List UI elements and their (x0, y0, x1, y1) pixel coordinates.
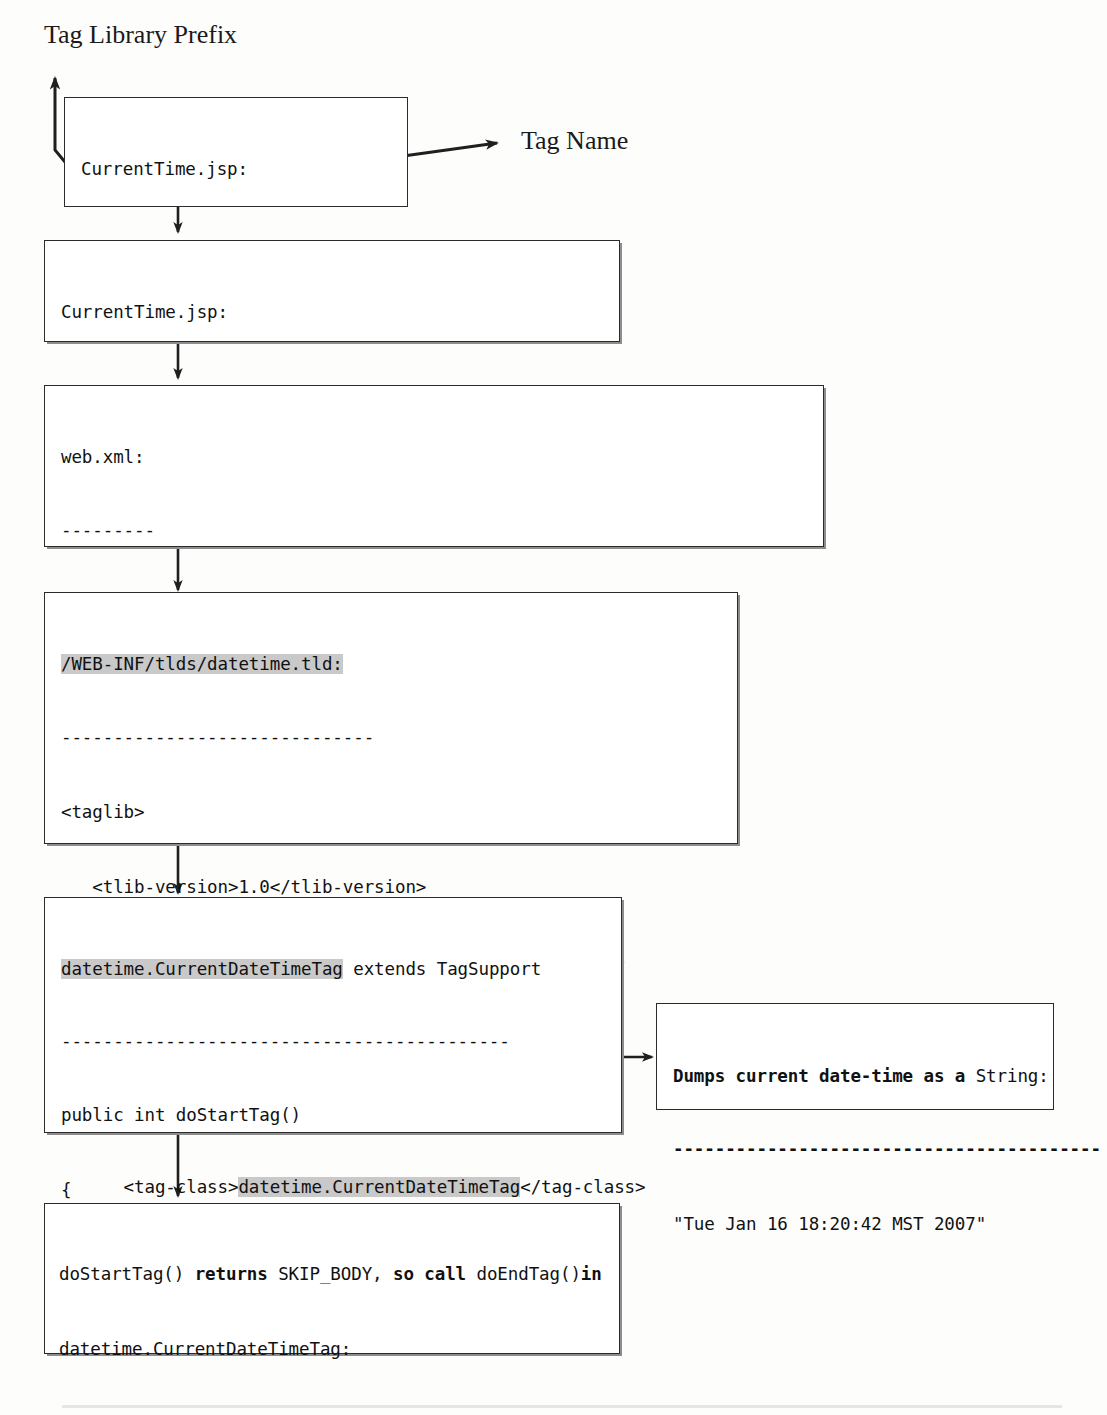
tagclass-fqcn: datetime.CurrentDateTimeTag (61, 959, 343, 979)
webxml-rule: --------- (61, 520, 823, 540)
tagclass-signature: public int doStartTag() (61, 1103, 621, 1128)
endtag-line-2: datetime.CurrentDateTimeTag: (59, 1337, 619, 1362)
tagclass-extends: extends TagSupport (343, 959, 541, 979)
box-taglib-directive: CurrentTime.jsp: ---------------------- … (44, 240, 620, 342)
tag-name-label: Tag Name (521, 126, 628, 156)
jsp-usage-filename: CurrentTime.jsp: (81, 157, 407, 182)
output-value: "Tue Jan 16 18:20:42 MST 2007" (673, 1212, 1053, 1237)
box-output: Dumps current date-time as a String: ---… (656, 1003, 1054, 1110)
endtag-l1a: doStartTag() (59, 1264, 195, 1284)
tld-filename: /WEB-INF/tlds/datetime.tld: (61, 654, 343, 674)
tagclass-rule: ----------------------------------------… (61, 1032, 621, 1051)
endtag-l1c: SKIP_BODY, (268, 1264, 393, 1284)
tld-filename-line: /WEB-INF/tlds/datetime.tld: (61, 652, 737, 677)
figure-canvas: Tag Library Prefix Tag Name CurrentTime.… (0, 0, 1107, 1415)
tagclass-brace-open: { (61, 1178, 621, 1203)
box-tag-class: datetime.CurrentDateTimeTag extends TagS… (44, 897, 622, 1133)
box-end-tag: doStartTag() returns SKIP_BODY, so call … (44, 1203, 620, 1354)
output-header-bold: Dumps current date-time as a (673, 1066, 965, 1086)
box-tld: /WEB-INF/tlds/datetime.tld: ------------… (44, 592, 738, 844)
tld-rule: ------------------------------ (61, 727, 737, 747)
webxml-filename: web.xml: (61, 445, 823, 470)
endtag-l1f: in (581, 1264, 602, 1284)
tagclass-header: datetime.CurrentDateTimeTag extends TagS… (61, 957, 621, 982)
output-header-rest: String: (965, 1066, 1049, 1086)
endtag-l1b: returns (195, 1264, 268, 1284)
output-rule: ----------------------------------------… (673, 1139, 1053, 1159)
page-bottom-rule (62, 1405, 1062, 1408)
output-header: Dumps current date-time as a String: (673, 1064, 1053, 1089)
endtag-line-1: doStartTag() returns SKIP_BODY, so call … (59, 1262, 619, 1287)
endtag-l1e: doEndTag() (466, 1264, 581, 1284)
endtag-l1d: so call (393, 1264, 466, 1284)
tld-taglib-open: <taglib> (61, 800, 737, 825)
box-jsp-usage: CurrentTime.jsp: ---------------------- … (64, 97, 408, 207)
tag-library-prefix-label: Tag Library Prefix (44, 20, 237, 50)
box-web-xml: web.xml: --------- <taglib> <taglib-uri>… (44, 385, 824, 547)
directive-filename: CurrentTime.jsp: (61, 300, 619, 325)
